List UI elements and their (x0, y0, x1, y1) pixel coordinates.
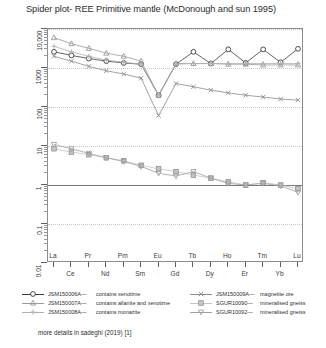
x-tick-mark (88, 262, 89, 267)
legend-item-jsm150006a[interactable]: JSM150006A—contains xenotime (22, 290, 192, 299)
y-axis: 10,00010001001010.10.01 (0, 28, 47, 262)
data-point (52, 49, 57, 54)
legend-marker-cross-icon (198, 291, 204, 297)
x-tick-mark (227, 262, 228, 267)
x-tick-mark (70, 262, 71, 267)
legend-item-sgur10092[interactable]: SGUR10092—mineralised gneiss (190, 308, 326, 317)
series-layer (48, 29, 303, 262)
data-point (30, 309, 35, 314)
data-point (51, 35, 56, 40)
series-sgur10092 (51, 142, 300, 195)
x-tick-label-sm: Sm (135, 270, 145, 277)
x-tick-mark (297, 262, 298, 267)
legend-column-right: JSM150009A—magnetite oreSGUR10090—minera… (190, 290, 326, 317)
legend-sample-id: JSM150007A— (48, 299, 87, 308)
x-tick-mark (175, 262, 176, 267)
data-point (199, 292, 203, 296)
legend-marker-triangle-open-icon (30, 300, 36, 306)
data-point (30, 300, 35, 305)
data-point (156, 167, 161, 172)
data-point (69, 59, 73, 63)
data-point (198, 310, 203, 315)
x-tick-mark (192, 262, 193, 267)
x-tick-label-eu: Eu (154, 252, 162, 259)
y-tick-label: 10 (36, 148, 43, 155)
data-point (174, 169, 179, 174)
x-tick-label-la: La (49, 252, 56, 259)
x-tick-label-ce: Ce (66, 270, 74, 277)
data-point (156, 113, 160, 117)
series-line (54, 46, 298, 95)
legend-item-jsm150007a[interactable]: JSM150007A—contains allanite and xenotim… (22, 299, 192, 308)
legend-sample-description: contains monazite (96, 308, 140, 317)
x-tick-label-dy: Dy (206, 270, 214, 277)
legend-sample-description: mineralised gneiss (260, 299, 306, 308)
legend-sample-id: JSM150008A— (48, 308, 87, 317)
data-point (191, 49, 196, 54)
spider-plot-figure: Spider plot- REE Primitive mantle (McDon… (0, 0, 326, 348)
x-axis: LaCePrNdPmSmEuGdTbDyHoErTmYbLu (47, 262, 303, 288)
x-tick-label-gd: Gd (171, 270, 180, 277)
legend-column-left: JSM150006A—contains xenotimeJSM150007A—c… (22, 290, 192, 317)
chart-legend: JSM150006A—contains xenotimeJSM150007A—c… (22, 290, 322, 320)
legend-sample-description: contains xenotime (96, 290, 140, 299)
figure-caption: more details in sadeghi (2019) [1] (38, 329, 131, 336)
y-tick-label: 1 (36, 187, 43, 191)
legend-sample-description: contains allanite and xenotime (96, 299, 170, 308)
x-tick-mark (280, 262, 281, 267)
x-tick-mark (158, 262, 159, 267)
legend-sample-description: magnetite ore (260, 290, 294, 299)
y-tick-label: 1000 (36, 70, 43, 85)
plot-area (47, 28, 303, 262)
x-tick-label-yb: Yb (276, 270, 284, 277)
series-line (54, 49, 298, 95)
x-tick-label-lu: Lu (293, 252, 300, 259)
data-point (51, 44, 56, 49)
x-tick-label-tb: Tb (189, 252, 197, 259)
legend-item-jsm150008a[interactable]: JSM150008A—contains monazite (22, 308, 192, 317)
data-point (31, 292, 36, 297)
data-point (261, 47, 266, 52)
y-tick-label: 10,000 (36, 31, 43, 51)
x-tick-mark (140, 262, 141, 267)
x-tick-mark (245, 262, 246, 267)
data-point (296, 46, 301, 51)
legend-marker-triangle-down-icon (198, 309, 204, 315)
legend-sample-id: JSM150009A— (216, 290, 255, 299)
legend-marker-square-grey-icon (198, 300, 204, 306)
x-tick-mark (262, 262, 263, 267)
legend-sample-id: SGUR10090— (216, 299, 253, 308)
legend-sample-id: JSM150006A— (48, 290, 87, 299)
y-tick-label: 0.1 (36, 226, 43, 235)
legend-item-sgur10090[interactable]: SGUR10090—mineralised gneiss (190, 299, 326, 308)
x-tick-mark (53, 262, 54, 267)
x-tick-label-ho: Ho (223, 252, 231, 259)
x-tick-label-nd: Nd (101, 270, 109, 277)
x-tick-mark (105, 262, 106, 267)
legend-marker-circle-filled-icon (30, 291, 36, 297)
x-tick-mark (123, 262, 124, 267)
data-point (199, 301, 204, 306)
legend-marker-plus-icon (30, 309, 36, 315)
x-tick-label-pm: Pm (118, 252, 128, 259)
x-tick-label-pr: Pr (85, 252, 92, 259)
legend-sample-id: SGUR10092— (216, 308, 253, 317)
legend-item-jsm150009a[interactable]: JSM150009A—magnetite ore (190, 290, 326, 299)
legend-sample-description: mineralised gneiss (260, 308, 306, 317)
x-tick-label-tm: Tm (257, 252, 267, 259)
y-tick-label: 0.01 (36, 265, 43, 278)
y-tick-label: 100 (36, 109, 43, 120)
data-point (52, 54, 56, 58)
x-tick-label-er: Er (241, 270, 248, 277)
chart-title: Spider plot- REE Primitive mantle (McDon… (26, 4, 322, 15)
data-point (226, 47, 231, 52)
x-tick-mark (210, 262, 211, 267)
